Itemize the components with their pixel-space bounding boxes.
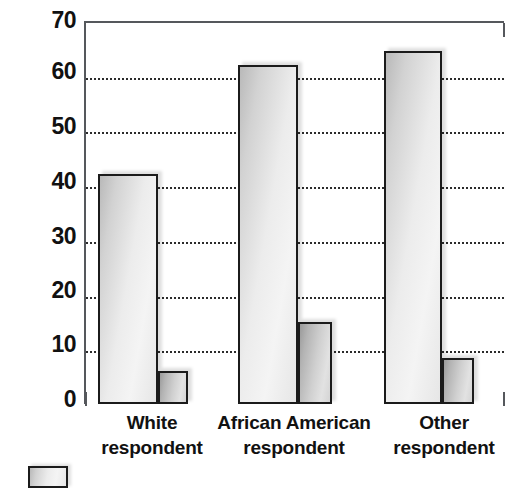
category-label-white: White respondent	[72, 410, 232, 460]
chart-legend	[28, 466, 78, 488]
category-label-african-american-line1: African American	[209, 410, 379, 435]
y-tick-label-20: 20	[6, 279, 76, 302]
category-label-other-line2: respondent	[364, 435, 524, 460]
bar-african-american-series-b	[298, 322, 332, 404]
y-tick-mark-0	[85, 392, 87, 406]
y-tick-label-30: 30	[6, 225, 76, 248]
category-label-white-line2: respondent	[72, 435, 232, 460]
category-label-white-line1: White	[72, 410, 232, 435]
bar-white-series-a	[98, 174, 158, 404]
bar-other-series-a	[384, 51, 442, 404]
y-tick-label-10: 10	[6, 333, 76, 356]
bar-other-series-b	[442, 358, 474, 405]
y-tick-label-0: 0	[6, 388, 76, 411]
category-label-other: Other respondent	[364, 410, 524, 460]
x-axis-category-labels: White respondent African American respon…	[84, 410, 504, 470]
y-tick-label-60: 60	[6, 60, 76, 83]
plot-area	[84, 21, 504, 404]
y-tick-label-70: 70	[6, 9, 76, 32]
category-label-other-line1: Other	[364, 410, 524, 435]
right-tick-mark-bottom	[503, 392, 505, 406]
y-tick-label-50: 50	[6, 115, 76, 138]
category-label-african-american-line2: respondent	[209, 435, 379, 460]
bar-african-american-series-a	[238, 65, 298, 404]
category-label-african-american: African American respondent	[209, 410, 379, 460]
bar-white-series-b	[158, 371, 188, 404]
y-axis-tick-labels: 70 60 50 40 30 20 10 0	[0, 0, 76, 480]
y-tick-label-40: 40	[6, 170, 76, 193]
plot-inner	[86, 23, 504, 404]
right-tick-mark-top	[503, 23, 505, 37]
legend-swatch-series-a	[28, 466, 68, 488]
